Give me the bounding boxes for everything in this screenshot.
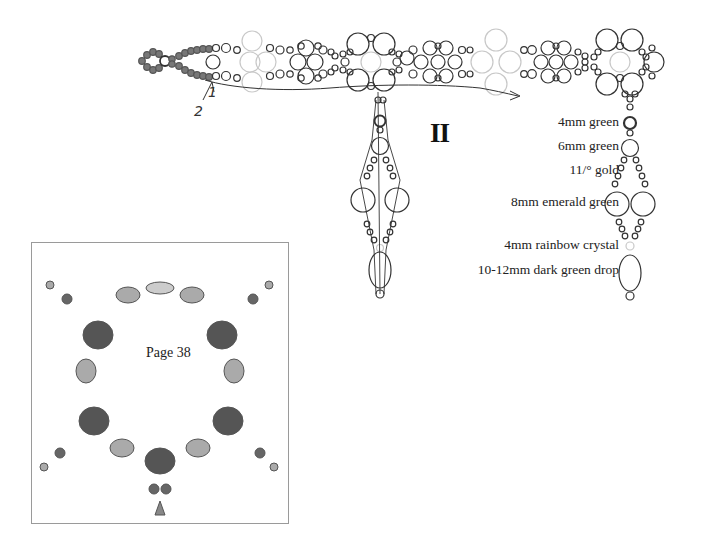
bracelet-photo	[31, 242, 289, 524]
legend-label-6mm-green: 6mm green	[558, 138, 619, 154]
legend-label-4mm-green: 4mm green	[558, 114, 619, 130]
bracelet-illustration	[32, 243, 288, 523]
photo-caption: Page 38	[146, 345, 191, 361]
left-dangle-diagram	[351, 92, 409, 298]
legend-label-8mm-emerald: 8mm emerald green	[511, 194, 619, 210]
thread-step-label-2: 2	[194, 103, 203, 119]
legend-label-drop: 10-12mm dark green drop	[478, 262, 619, 278]
legend-label-gold-seed: 11/° gold	[569, 162, 619, 178]
legend-label-rainbow-crystal: 4mm rainbow crystal	[504, 237, 619, 253]
section-label: II	[430, 118, 449, 149]
thread-step-label-1: 1	[208, 84, 217, 100]
